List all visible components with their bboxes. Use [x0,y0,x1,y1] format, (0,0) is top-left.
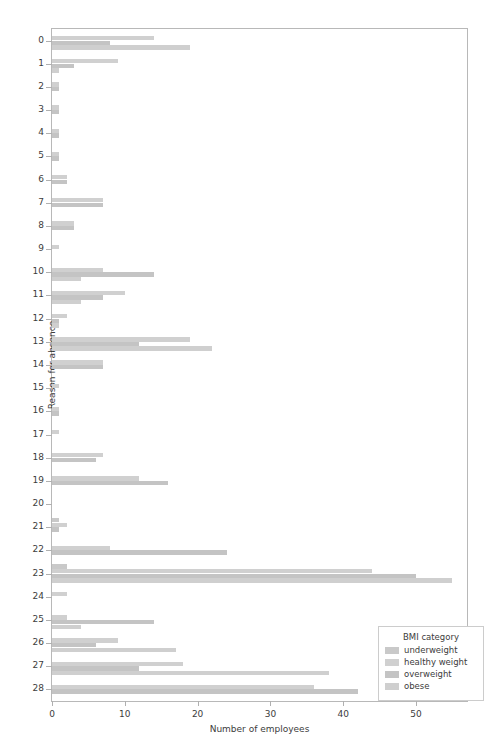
y-axis-tick [46,249,52,250]
x-axis-tick-label: 20 [183,710,213,719]
y-axis-tick [46,666,52,667]
bar [52,68,59,72]
legend-swatch [385,671,399,678]
plot-area: Reason for absence Number of employees 0… [51,28,468,702]
bar [52,277,81,281]
x-axis-tick-label: 0 [37,710,67,719]
bar [52,180,67,184]
legend-swatch [385,659,399,666]
bar [52,550,227,554]
y-axis-tick [46,180,52,181]
y-axis-tick [46,620,52,621]
legend-title: BMI category [385,632,477,642]
y-axis-tick-label: 10 [20,267,44,276]
y-axis-tick-label: 2 [20,82,44,91]
y-axis-tick [46,342,52,343]
x-axis-tick-label: 30 [255,710,285,719]
legend-swatch [385,647,399,654]
y-axis-tick [46,504,52,505]
bar [52,671,329,675]
y-axis-tick-label: 8 [20,221,44,230]
y-axis-tick [46,156,52,157]
bar [52,323,59,327]
y-axis-tick-label: 26 [20,638,44,647]
y-axis-tick-label: 9 [20,244,44,253]
legend: BMI category underweighthealthy weightov… [378,626,484,701]
chart-figure: Reason for absence Number of employees 0… [0,0,488,746]
x-axis-tick-label: 50 [401,710,431,719]
x-axis-tick [125,701,126,706]
y-axis-tick [46,365,52,366]
bar [52,527,59,531]
legend-label: underweight [404,646,458,655]
y-axis-tick [46,689,52,690]
bar [52,625,81,629]
y-axis-tick [46,388,52,389]
x-axis-tick [416,701,417,706]
y-axis-tick-label: 5 [20,151,44,160]
legend-item: obese [385,682,477,691]
y-axis-tick-label: 27 [20,661,44,670]
x-axis-tick-label: 10 [110,710,140,719]
legend-item: underweight [385,646,477,655]
bar [52,689,358,693]
y-axis-tick [46,643,52,644]
y-axis-tick-label: 7 [20,198,44,207]
bar [52,346,212,350]
y-axis-tick [46,550,52,551]
y-axis-tick [46,319,52,320]
y-axis-tick [46,133,52,134]
y-axis-tick-label: 12 [20,314,44,323]
bar [52,300,81,304]
y-axis-tick-label: 15 [20,383,44,392]
x-axis-tick [198,701,199,706]
bar [52,411,59,415]
y-axis-tick [46,411,52,412]
legend-label: overweight [404,670,452,679]
bar [52,203,103,207]
y-axis-tick [46,203,52,204]
y-axis-tick-label: 1 [20,59,44,68]
y-axis-tick-label: 25 [20,615,44,624]
y-axis-tick-label: 21 [20,522,44,531]
y-axis-tick-label: 16 [20,406,44,415]
x-axis-tick [270,701,271,706]
bar [52,226,74,230]
bar [52,481,168,485]
bar [52,45,190,49]
bar [52,592,67,596]
y-axis-tick [46,574,52,575]
legend-entries: underweighthealthy weightoverweightobese [385,646,477,691]
y-axis-tick-label: 28 [20,684,44,693]
y-axis-tick-label: 20 [20,499,44,508]
y-axis-tick [46,272,52,273]
bar [52,110,59,114]
bar [52,648,176,652]
y-axis-tick [46,597,52,598]
y-axis-tick-label: 4 [20,128,44,137]
y-axis-tick [46,87,52,88]
bar [52,430,59,434]
x-axis-tick-label: 40 [328,710,358,719]
bar [52,133,59,137]
y-axis-tick [46,41,52,42]
y-axis-tick-label: 6 [20,175,44,184]
legend-label: obese [404,682,429,691]
y-axis-tick-label: 17 [20,430,44,439]
y-axis-tick-label: 0 [20,36,44,45]
bar [52,365,103,369]
x-axis-tick [52,701,53,706]
y-axis-tick [46,64,52,65]
y-axis-tick-label: 14 [20,360,44,369]
y-axis-tick-label: 11 [20,290,44,299]
legend-item: overweight [385,670,477,679]
y-axis-tick [46,458,52,459]
bars-layer [52,29,467,701]
y-axis-tick-label: 3 [20,105,44,114]
y-axis-tick-label: 18 [20,453,44,462]
y-axis-tick [46,435,52,436]
legend-swatch [385,683,399,690]
y-axis-tick-label: 24 [20,592,44,601]
y-axis-tick [46,527,52,528]
y-axis-tick [46,110,52,111]
